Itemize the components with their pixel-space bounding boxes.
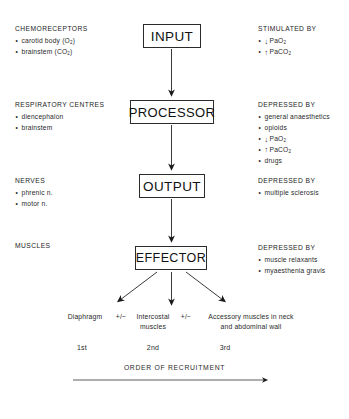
branch-plus-minus-1: +/− [110, 312, 132, 322]
annotation-depressed-by-processor-heading: DEPRESSED BY [258, 100, 330, 111]
list-item-text: motor n. [22, 200, 48, 207]
branch-plus-minus-2: +/− [175, 312, 197, 322]
list-item-text: myaesthenia gravis [265, 267, 326, 274]
list-item: ↓PaO2 [258, 36, 317, 47]
list-item-text: opioids [265, 124, 287, 131]
annotation-nerves-heading: NERVES [15, 176, 53, 187]
annotation-respiratory-centres: RESPIRATORY CENTRES diencephalon brainst… [15, 100, 104, 134]
branch-label-intercostal-line1: Intercostal [136, 313, 169, 320]
annotation-chemoreceptors-list: carotid body (O2) brainstem (CO2) [15, 36, 88, 58]
list-item: brainstem [15, 123, 104, 134]
branch-label-accessory: Accessory muscles in neck and abdominal … [196, 312, 306, 332]
list-item: muscle relaxants [258, 255, 325, 266]
arrow-up-icon: ↑ [265, 146, 270, 154]
annotation-depressed-by-effector-list: muscle relaxants myaesthenia gravis [258, 255, 325, 277]
list-item-text: diencephalon [22, 113, 64, 120]
annotation-depressed-by-effector: DEPRESSED BY muscle relaxants myaestheni… [258, 243, 325, 277]
annotation-nerves: NERVES phrenic n. motor n. [15, 176, 53, 210]
list-item-text: PaO2 [270, 37, 287, 44]
list-item-text: phrenic n. [22, 189, 53, 196]
ordinal-first: 1st [62, 344, 102, 351]
node-processor-label: PROCESSOR [129, 105, 216, 120]
annotation-muscles-heading: MUSCLES [15, 241, 50, 252]
list-item: brainstem (CO2) [15, 47, 88, 58]
annotation-depressed-by-output-list: multiple sclerosis [258, 188, 319, 199]
list-item: motor n. [15, 199, 53, 210]
list-item: ↑PaCO2 [258, 47, 317, 58]
list-item-text: PaCO2 [270, 146, 292, 153]
list-item: multiple sclerosis [258, 188, 319, 199]
branch-label-accessory-line2: and abdominal wall [221, 323, 282, 330]
order-of-recruitment-caption: ORDER OF RECRUITMENT [0, 364, 349, 371]
annotation-stimulated-by-input-list: ↓PaO2 ↑PaCO2 [258, 36, 317, 58]
branch-label-intercostal-line2: muscles [140, 323, 166, 330]
annotation-depressed-by-output-heading: DEPRESSED BY [258, 176, 319, 187]
list-item-text: brainstem [22, 124, 53, 131]
node-processor[interactable]: PROCESSOR [130, 100, 214, 124]
list-item: drugs [258, 156, 330, 167]
branch-label-diaphragm: Diaphragm [58, 312, 112, 322]
ordinal-third: 3rd [205, 344, 245, 351]
annotation-respiratory-centres-heading: RESPIRATORY CENTRES [15, 100, 104, 111]
node-output[interactable]: OUTPUT [139, 174, 205, 198]
list-item: carotid body (O2) [15, 36, 88, 47]
annotation-nerves-list: phrenic n. motor n. [15, 188, 53, 210]
node-effector[interactable]: EFFECTOR [135, 246, 207, 270]
list-item-text: PaCO2 [270, 48, 292, 55]
arrow-down-icon: ↓ [265, 38, 270, 46]
diagram-canvas: INPUT PROCESSOR OUTPUT EFFECTOR CHEMOREC… [0, 0, 349, 419]
annotation-depressed-by-effector-heading: DEPRESSED BY [258, 243, 325, 254]
list-item: general anaesthetics [258, 112, 330, 123]
list-item-text: general anaesthetics [265, 113, 330, 120]
annotation-depressed-by-processor-list: general anaesthetics opioids ↓PaO2 ↑PaCO… [258, 112, 330, 166]
annotation-depressed-by-processor: DEPRESSED BY general anaesthetics opioid… [258, 100, 330, 167]
list-item-text: carotid body (O2) [22, 37, 76, 44]
annotation-depressed-by-output: DEPRESSED BY multiple sclerosis [258, 176, 319, 199]
list-item: diencephalon [15, 112, 104, 123]
annotation-chemoreceptors-heading: CHEMORECEPTORS [15, 24, 88, 35]
annotation-stimulated-by-input-heading: STIMULATED BY [258, 24, 317, 35]
branch-label-accessory-line1: Accessory muscles in neck [208, 313, 293, 320]
list-item-text: multiple sclerosis [265, 189, 319, 196]
annotation-chemoreceptors: CHEMORECEPTORS carotid body (O2) brainst… [15, 24, 88, 58]
list-item-text: drugs [265, 157, 283, 164]
list-item: opioids [258, 123, 330, 134]
list-item: myaesthenia gravis [258, 266, 325, 277]
annotation-respiratory-centres-list: diencephalon brainstem [15, 112, 104, 134]
branch-label-intercostal: Intercostal muscles [131, 312, 175, 332]
node-effector-label: EFFECTOR [136, 251, 206, 265]
node-output-label: OUTPUT [143, 179, 201, 194]
list-item-text: muscle relaxants [265, 256, 318, 263]
list-item: ↓PaO2 [258, 134, 330, 145]
arrow-down-icon: ↓ [265, 136, 270, 144]
ordinal-second: 2nd [133, 344, 173, 351]
list-item-text: PaO2 [270, 135, 287, 142]
annotation-stimulated-by-input: STIMULATED BY ↓PaO2 ↑PaCO2 [258, 24, 317, 58]
annotation-muscles: MUSCLES [15, 241, 50, 253]
list-item: phrenic n. [15, 188, 53, 199]
node-input[interactable]: INPUT [143, 24, 201, 48]
list-item-text: brainstem (CO2) [22, 48, 73, 55]
list-item: ↑PaCO2 [258, 145, 330, 156]
arrow-up-icon: ↑ [265, 49, 270, 57]
node-input-label: INPUT [151, 29, 194, 44]
